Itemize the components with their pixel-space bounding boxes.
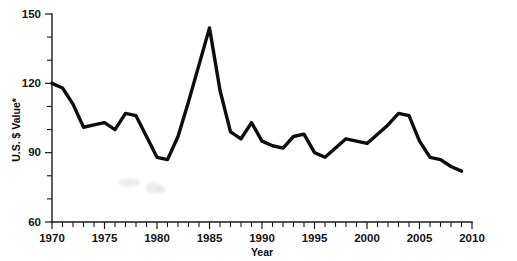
y-tick-label: 90 [28,146,41,158]
x-tick-label: 2000 [354,232,380,244]
x-tick-label: 2010 [459,232,485,244]
x-tick-label: 1970 [39,232,65,244]
y-tick-label: 60 [28,216,41,228]
y-tick-label: 150 [22,8,41,20]
x-tick-label: 1985 [197,232,223,244]
line-chart: 6090120150 19701975198019851990199520002… [0,0,517,261]
x-tick-label: 1990 [249,232,275,244]
y-tick-label: 120 [22,77,41,89]
chart-canvas: 6090120150 19701975198019851990199520002… [0,0,517,261]
x-tick-label: 2005 [407,232,433,244]
x-axis-title: Year [251,246,273,258]
y-axis-title: U.S. $ Value* [10,97,22,162]
x-tick-label: 1975 [92,232,118,244]
x-tick-label: 1980 [144,232,170,244]
x-axis-tick-labels: 197019751980198519901995200020052010 [39,232,485,244]
x-tick-label: 1995 [302,232,328,244]
